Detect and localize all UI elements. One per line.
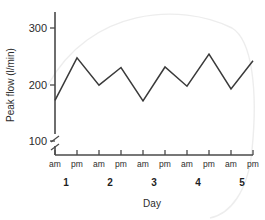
x-tick-label-8: am — [225, 159, 237, 169]
peak-flow-data-line — [55, 54, 253, 101]
x-tick-label-7: pm — [203, 159, 215, 169]
y-tick-label-100: 100 — [29, 135, 47, 147]
y-axis-title: Peak flow (l/min) — [5, 48, 16, 122]
x-tick-label-9: pm — [247, 159, 259, 169]
chart-canvas: 300 200 100 am pm am pm am pm am pm am p… — [0, 0, 265, 220]
x-tick-label-0: am — [49, 159, 61, 169]
x-tick-label-4: am — [137, 159, 149, 169]
x-tick-label-1: pm — [71, 159, 83, 169]
day-label-4: 4 — [195, 177, 201, 188]
day-label-3: 3 — [151, 177, 157, 188]
y-tick-label-300: 300 — [29, 22, 47, 34]
x-tick-label-2: am — [93, 159, 105, 169]
day-label-2: 2 — [107, 177, 113, 188]
day-label-5: 5 — [239, 177, 245, 188]
y-tick-label-200: 200 — [29, 79, 47, 91]
day-label-1: 1 — [63, 177, 69, 188]
x-tick-label-5: pm — [159, 159, 171, 169]
peak-flow-chart: 300 200 100 am pm am pm am pm am pm am p… — [0, 0, 265, 220]
x-axis-title: Day — [143, 198, 161, 209]
x-tick-label-6: am — [181, 159, 193, 169]
x-tick-label-3: pm — [115, 159, 127, 169]
